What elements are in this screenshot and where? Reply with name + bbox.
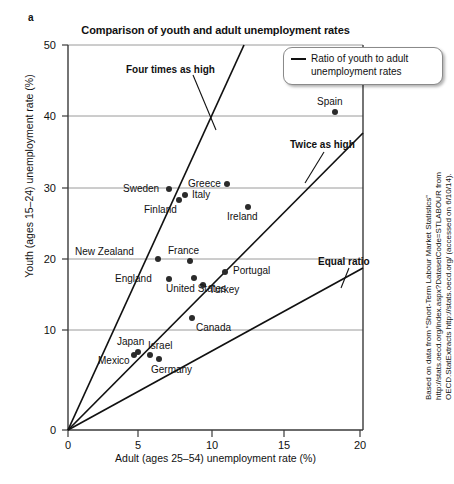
y-tick-20: 20 [32, 253, 56, 265]
point-label-ireland: Ireland [227, 211, 258, 222]
figure-panel: a Comparison of youth and adult unemploy… [0, 0, 454, 484]
x-tick-0: 0 [56, 439, 80, 451]
x-axis-title: Adult (ages 25–54) unemployment rate (%) [68, 452, 363, 464]
legend-line-swatch-icon [291, 58, 306, 60]
data-point [182, 192, 188, 198]
point-label-italy: Italy [192, 189, 210, 200]
point-label-turkey: Turkey [209, 284, 239, 295]
data-point [147, 352, 153, 358]
data-point [176, 197, 182, 203]
x-tick-20: 20 [348, 439, 372, 451]
annotation-four-times: Four times as high [126, 64, 215, 75]
data-point [332, 109, 338, 115]
x-tick-10: 10 [200, 439, 224, 451]
source-note-line-2: http://stats.oecd.org/index.aspx?Dataset… [434, 172, 443, 400]
point-label-israel: Israel [148, 340, 172, 351]
point-label-new-zealand: New Zealand [75, 246, 134, 257]
x-tick-15: 15 [272, 439, 296, 451]
y-axis-title: Youth (ages 15–24) unemployment rate (%) [23, 46, 35, 306]
point-label-united-states: United States [166, 283, 210, 294]
data-point [189, 315, 195, 321]
point-label-germany: Germany [151, 364, 192, 375]
data-point [222, 269, 228, 275]
data-point [245, 204, 251, 210]
legend-label: Ratio of youth to adult unemployment rat… [311, 53, 435, 78]
data-point [166, 276, 172, 282]
data-point [224, 181, 230, 187]
x-tick-5: 5 [126, 439, 150, 451]
y-tick-30: 30 [32, 182, 56, 194]
point-label-portugal: Portugal [233, 265, 270, 276]
legend: Ratio of youth to adult unemployment rat… [283, 47, 443, 85]
data-point [191, 275, 197, 281]
point-label-mexico: Mexico [98, 355, 130, 366]
annotation-twice: Twice as high [290, 139, 355, 150]
data-point [187, 258, 193, 264]
point-label-spain: Spain [317, 96, 343, 107]
point-label-finland: Finland [144, 204, 177, 215]
point-label-france: France [168, 245, 199, 256]
annotation-equal: Equal ratio [318, 256, 370, 267]
data-point [131, 352, 137, 358]
data-point [155, 256, 161, 262]
y-tick-40: 40 [32, 110, 56, 122]
point-label-greece: Greece [188, 178, 221, 189]
source-note-line-3: OECD.StatExtracts http://stats.oecd.org/… [444, 173, 453, 400]
point-label-sweden: Sweden [123, 183, 159, 194]
point-label-canada: Canada [196, 322, 231, 333]
data-point [156, 356, 162, 362]
y-tick-50: 50 [32, 39, 56, 51]
point-label-japan: Japan [117, 336, 144, 347]
y-tick-0: 0 [32, 424, 56, 436]
data-point [166, 186, 172, 192]
point-label-england: England [115, 273, 152, 284]
y-tick-10: 10 [32, 324, 56, 336]
source-note-line-1: Based on data from “Short-Term Labour Ma… [424, 195, 433, 400]
